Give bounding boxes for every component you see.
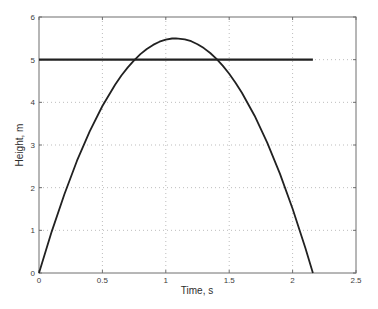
x-axis-label: Time, s [181,285,213,296]
x-tick-label: 2 [290,276,295,285]
tick-label-layer: 00.511.522.50123456 [31,13,363,285]
y-tick-label: 5 [31,56,36,65]
y-tick-label: 4 [31,98,36,107]
x-tick-label: 0.5 [97,276,109,285]
y-tick-label: 2 [31,184,36,193]
plot-box [39,17,356,273]
projectile-plot-figure: 00.511.522.50123456 Time, s Height, m [0,0,378,309]
tick-layer [39,17,356,273]
y-tick-label: 6 [31,13,36,22]
x-tick-label: 1 [164,276,169,285]
y-axis-label: Height, m [14,124,25,167]
x-tick-label: 2.5 [350,276,362,285]
x-tick-label: 0 [37,276,42,285]
y-tick-label: 0 [31,269,36,278]
series-layer [39,38,313,273]
y-tick-label: 3 [31,141,36,150]
grid-layer [39,17,356,273]
y-tick-label: 1 [31,226,36,235]
x-tick-label: 1.5 [224,276,236,285]
chart-canvas: 00.511.522.50123456 Time, s Height, m [0,0,378,309]
projectile-height-curve [39,38,313,273]
